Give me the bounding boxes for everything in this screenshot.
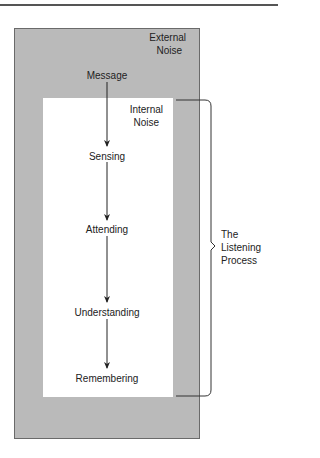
bracket-label-line2: Listening [221,241,261,254]
stage-remembering: Remembering [76,372,139,385]
listening-process-label: The Listening Process [221,228,261,267]
bracket-label-line3: Process [221,254,261,267]
stage-understanding: Understanding [74,306,139,319]
stage-attending: Attending [86,223,128,236]
listening-process-bracket [176,100,215,396]
stage-message: Message [87,69,128,82]
stage-sensing: Sensing [89,150,125,163]
bracket-label-line1: The [221,228,261,241]
